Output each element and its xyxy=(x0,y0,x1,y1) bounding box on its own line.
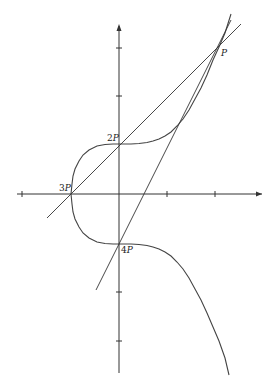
y-axis-arrow-icon xyxy=(117,24,122,31)
diagram-canvas xyxy=(0,0,274,391)
label-3p: 3P xyxy=(59,184,71,193)
label-2p: 2P xyxy=(107,134,119,143)
tangent-line xyxy=(96,20,231,290)
label-p: P xyxy=(221,49,227,58)
label-4p: 4P xyxy=(121,246,133,255)
elliptic-curve-diagram: P 2P 3P 4P xyxy=(0,0,274,391)
x-axis-arrow-icon xyxy=(256,192,262,197)
secant-line xyxy=(47,24,241,218)
